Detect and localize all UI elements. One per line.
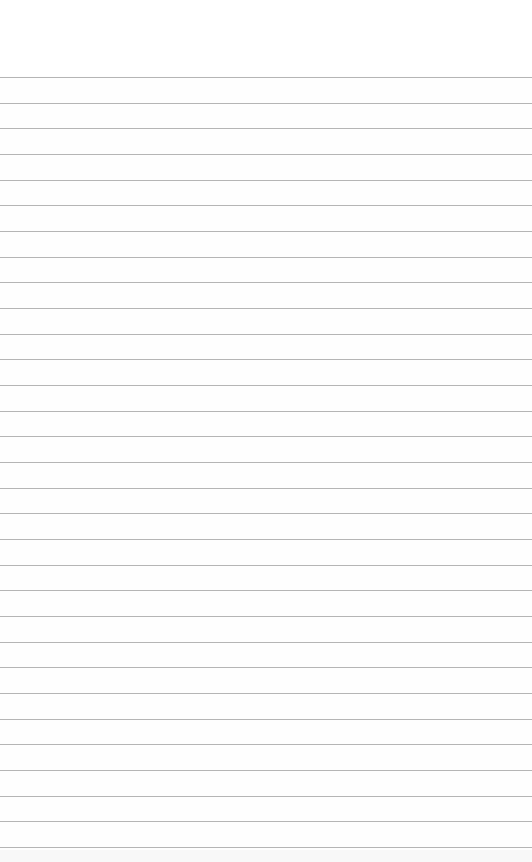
ruled-line [0,796,532,797]
ruled-line [0,462,532,463]
ruled-line [0,128,532,129]
lined-paper-page [0,0,532,862]
ruled-line [0,513,532,514]
ruled-line [0,821,532,822]
ruled-line [0,334,532,335]
ruled-line [0,642,532,643]
ruled-line [0,154,532,155]
ruled-line [0,77,532,78]
ruled-line [0,539,532,540]
ruled-line [0,744,532,745]
ruled-line [0,667,532,668]
ruled-line [0,257,532,258]
ruled-line [0,436,532,437]
ruled-line [0,411,532,412]
ruled-line [0,488,532,489]
ruled-line [0,385,532,386]
ruled-line [0,103,532,104]
ruled-line [0,231,532,232]
ruled-line [0,770,532,771]
ruled-line [0,180,532,181]
ruled-line [0,719,532,720]
ruled-line [0,693,532,694]
ruled-line [0,282,532,283]
bottom-margin [0,850,532,862]
ruled-line [0,359,532,360]
top-margin [0,0,532,76]
ruled-line [0,205,532,206]
ruled-line [0,616,532,617]
ruled-line [0,308,532,309]
ruled-line [0,590,532,591]
ruled-line [0,847,532,848]
ruled-line [0,565,532,566]
